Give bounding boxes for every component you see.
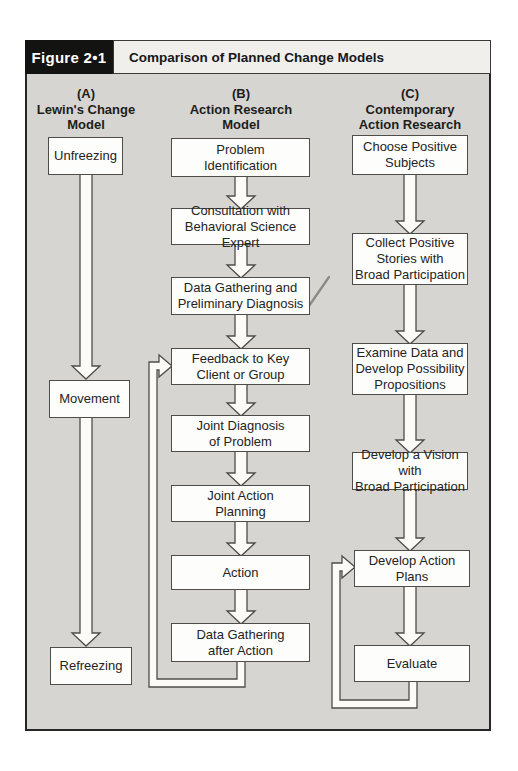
arrow-choose-to-collect <box>396 174 424 234</box>
page: Figure 2•1 Comparison of Planned Change … <box>0 0 518 771</box>
node-problem-identification: Problem Identification <box>171 138 310 177</box>
column-heading-action-research: (B) Action Research Model <box>171 86 311 133</box>
arrow-datagathering-to-feedback <box>227 314 255 349</box>
node-joint-action-planning: Joint Action Planning <box>171 485 310 522</box>
arrow-examine-to-vision <box>396 394 424 453</box>
node-develop-action-plans: Develop Action Plans <box>354 550 470 587</box>
arrow-jointdiagnosis-to-jointplanning <box>227 451 255 486</box>
figure-title: Comparison of Planned Change Models <box>113 40 491 74</box>
node-data-gathering-preliminary: Data Gathering and Preliminary Diagnosis <box>171 277 310 315</box>
arrow-unfreezing-to-movement <box>72 174 100 379</box>
column-heading-lewin: (A) Lewin's Change Model <box>32 86 140 133</box>
node-collect-positive-stories: Collect Positive Stories with Broad Part… <box>352 233 468 285</box>
node-consultation: Consultation with Behavioral Science Exp… <box>171 208 310 245</box>
node-action: Action <box>171 555 310 590</box>
arrow-action-to-datagathering-after <box>227 589 255 624</box>
figure-header: Figure 2•1 Comparison of Planned Change … <box>25 40 491 74</box>
arrow-collect-to-examine <box>396 284 424 344</box>
arrow-movement-to-refreezing <box>72 417 100 646</box>
arrow-vision-to-actionplans <box>396 489 424 551</box>
node-refreezing: Refreezing <box>50 647 132 685</box>
column-heading-contemporary: (C) Contemporary Action Research <box>343 86 477 133</box>
node-joint-diagnosis: Joint Diagnosis of Problem <box>171 415 310 452</box>
node-evaluate: Evaluate <box>354 645 470 682</box>
figure-label: Figure 2•1 <box>25 40 113 74</box>
node-movement: Movement <box>49 380 130 418</box>
node-develop-vision: Develop a Vision with Broad Participatio… <box>352 452 468 490</box>
arrow-actionplans-to-evaluate <box>396 586 424 646</box>
node-examine-data: Examine Data and Develop Possibility Pro… <box>352 343 468 395</box>
node-choose-positive-subjects: Choose Positive Subjects <box>352 135 468 175</box>
arrow-feedback-to-jointdiagnosis <box>227 384 255 416</box>
node-unfreezing: Unfreezing <box>48 137 123 175</box>
node-feedback-to-key-client: Feedback to Key Client or Group <box>171 348 310 385</box>
node-data-gathering-after-action: Data Gathering after Action <box>171 623 310 662</box>
arrow-jointplanning-to-action <box>227 521 255 556</box>
